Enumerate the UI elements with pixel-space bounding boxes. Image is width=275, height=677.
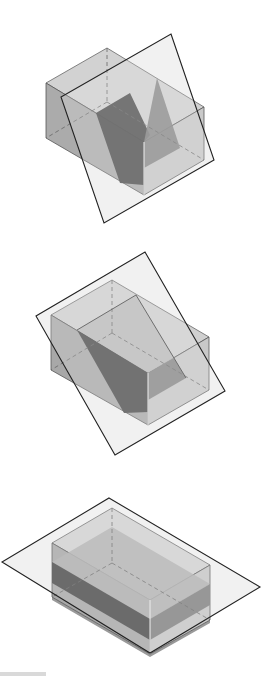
diagram-canvas bbox=[0, 0, 275, 677]
figure-2 bbox=[36, 252, 225, 455]
scroll-indicator bbox=[0, 672, 46, 676]
cutting-plane-outline bbox=[2, 498, 260, 653]
figure-1 bbox=[46, 34, 214, 223]
cutting-plane-outline bbox=[36, 252, 225, 455]
figure-3 bbox=[2, 498, 260, 657]
